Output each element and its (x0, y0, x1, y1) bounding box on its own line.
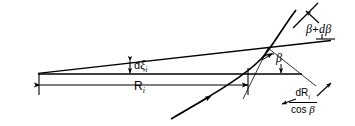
cos-text: cos (291, 104, 307, 115)
label-d-xi-i: dξi (134, 59, 148, 74)
plus-operator: + (312, 23, 319, 35)
label-beta-plus-dbeta: β+dβ (306, 23, 332, 35)
dR-subscript: i (308, 93, 310, 101)
fraction-denominator: cos β (289, 103, 317, 115)
R-subscript: i (143, 86, 145, 95)
figure-canvas: β+dβ β dξi Ri dRi cos β (0, 0, 355, 126)
xi-subscript: i (145, 65, 147, 74)
label-dR-over-cos-beta: dRi cos β (289, 88, 317, 115)
label-beta: β (276, 52, 282, 64)
trajectory-direction-arrow (176, 96, 211, 116)
dr-dimension-arrow-right (317, 83, 331, 96)
fraction-numerator: dRi (289, 88, 317, 102)
upper-tangent-line (38, 41, 331, 74)
label-R-i: Ri (134, 80, 145, 95)
d-beta-differential: dβ (319, 22, 332, 36)
R-symbol: R (134, 79, 143, 93)
denominator-beta-symbol: β (309, 103, 314, 115)
